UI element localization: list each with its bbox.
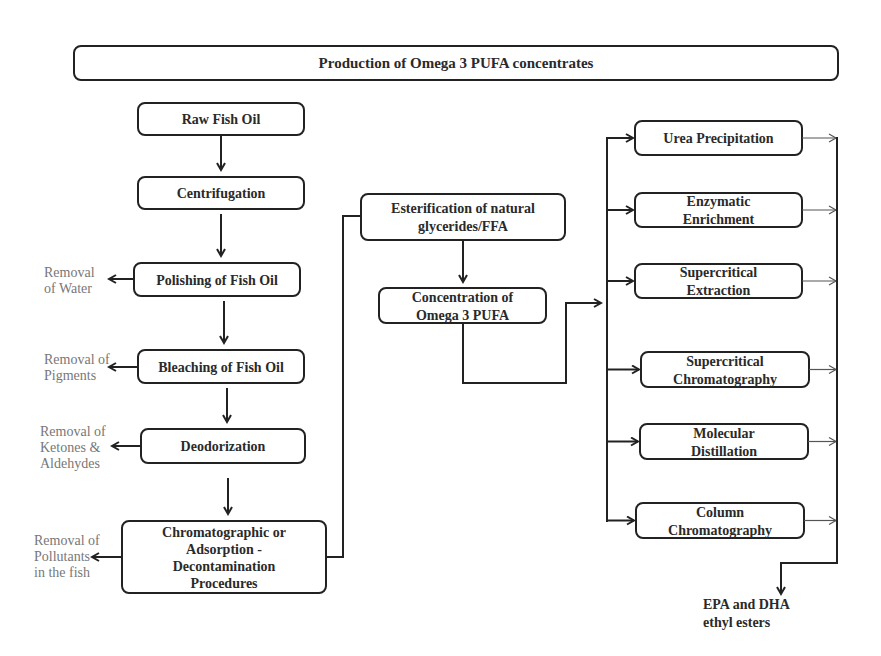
- step-deodorization: Deodorization: [141, 429, 305, 463]
- step-decontamination-label-line: Procedures: [190, 576, 258, 591]
- step-polishing-label-line: Polishing of Fish Oil: [156, 273, 278, 288]
- step-raw-label-line: Raw Fish Oil: [182, 112, 261, 127]
- method-column-label-line: Column: [696, 505, 744, 520]
- method-sfc-label-line: Supercritical: [686, 354, 764, 369]
- side-note-deodorization: Removal ofKetones &Aldehydes: [40, 424, 106, 471]
- step-esterification-label-line: glycerides/FFA: [418, 219, 509, 234]
- side-note-polishing-line: Removal: [44, 265, 95, 280]
- step-esterification-label-line: Esterification of natural: [391, 201, 535, 216]
- title-box: Production of Omega 3 PUFA concentrates: [74, 46, 838, 80]
- step-concentration-label-line: Omega 3 PUFA: [416, 308, 510, 323]
- method-urea-label-line: Urea Precipitation: [663, 131, 774, 146]
- side-note-deodorization-line: Aldehydes: [40, 456, 100, 471]
- method-molecular-label-line: Molecular: [693, 426, 754, 441]
- step-polishing: Polishing of Fish Oil: [134, 263, 300, 296]
- side-note-bleaching-line: Removal of: [44, 352, 110, 367]
- step-decontamination-label-line: Chromatographic or: [162, 525, 286, 540]
- step-centrifugation: Centrifugation: [138, 177, 304, 209]
- side-note-bleaching: Removal ofPigments: [44, 352, 110, 383]
- step-bleaching-label-line: Bleaching of Fish Oil: [158, 360, 284, 375]
- method-molecular: MolecularDistillation: [640, 424, 808, 459]
- step-concentration-label-line: Concentration of: [412, 290, 514, 305]
- side-note-decontamination-line: Removal of: [34, 533, 100, 548]
- method-sfe-label-line: Extraction: [687, 283, 751, 298]
- step-decontamination-label-line: Adsorption -: [186, 542, 262, 557]
- side-note-bleaching-line: Pigments: [44, 368, 96, 383]
- side-note-deodorization-line: Removal of: [40, 424, 106, 439]
- side-note-polishing: Removalof Water: [44, 265, 95, 296]
- method-enzymatic: EnzymaticEnrichment: [635, 193, 802, 227]
- step-decontamination: Chromatographic orAdsorption -Decontamin…: [122, 521, 326, 593]
- method-column: ColumnChromatography: [636, 503, 804, 538]
- step-deodorization-label-line: Deodorization: [181, 439, 266, 454]
- side-note-decontamination: Removal ofPollutantsin the fish: [34, 533, 100, 580]
- method-sfe-label-line: Supercritical: [680, 265, 758, 280]
- step-decontamination-label-line: Decontamination: [173, 559, 276, 574]
- step-concentration: Concentration ofOmega 3 PUFA: [379, 288, 546, 323]
- method-urea: Urea Precipitation: [635, 121, 802, 155]
- output-label-line: ethyl esters: [703, 615, 771, 630]
- method-sfc-label-line: Chromatography: [673, 372, 777, 387]
- step-bleaching: Bleaching of Fish Oil: [138, 350, 304, 383]
- method-molecular-label-line: Distillation: [691, 444, 757, 459]
- method-enzymatic-label-line: Enzymatic: [687, 194, 751, 209]
- method-column-label-line: Chromatography: [668, 523, 772, 538]
- side-note-decontamination-line: Pollutants: [34, 549, 90, 564]
- output-label-line: EPA and DHA: [703, 597, 791, 612]
- side-note-polishing-line: of Water: [44, 281, 92, 296]
- method-sfe: SupercriticalExtraction: [635, 264, 802, 298]
- output-label: EPA and DHAethyl esters: [703, 597, 791, 630]
- step-centrifugation-label-line: Centrifugation: [177, 186, 266, 201]
- side-note-deodorization-line: Ketones &: [40, 440, 100, 455]
- step-raw: Raw Fish Oil: [138, 103, 304, 135]
- connector-to-esterification: [326, 216, 361, 557]
- method-sfc: SupercriticalChromatography: [641, 352, 809, 387]
- method-enzymatic-label-line: Enrichment: [683, 212, 755, 227]
- title-text: Production of Omega 3 PUFA concentrates: [319, 55, 594, 71]
- side-note-decontamination-line: in the fish: [34, 565, 90, 580]
- flowchart: Production of Omega 3 PUFA concentrates …: [0, 0, 881, 656]
- step-esterification: Esterification of naturalglycerides/FFA: [361, 194, 565, 240]
